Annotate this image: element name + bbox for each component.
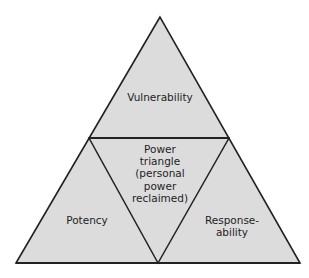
label-line: (personal [132,167,188,179]
label-line: Potency [66,214,108,226]
region-label-response-ability: Response- ability [205,214,259,238]
power-triangle-diagram [0,0,309,278]
label-line: Power [132,143,188,155]
label-line: Response- [205,214,259,226]
label-line: reclaimed) [132,192,188,204]
region-label-power-triangle: Power triangle (personal power reclaimed… [132,143,188,204]
label-line: power [132,180,188,192]
label-line: triangle [132,155,188,167]
region-label-vulnerability: Vulnerability [127,91,193,103]
label-line: ability [205,226,259,238]
region-label-potency: Potency [66,214,108,226]
label-line: Vulnerability [127,91,193,103]
